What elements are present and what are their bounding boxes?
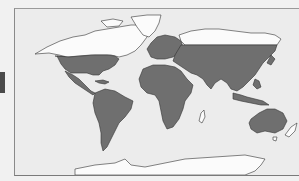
region-australia [249, 109, 287, 133]
region-south-america [93, 89, 133, 151]
region-northern-siberia [179, 29, 281, 45]
region-mexico-central-america [65, 71, 95, 95]
region-tasmania [273, 137, 277, 141]
region-philippines [253, 79, 261, 89]
map-canvas [15, 9, 299, 175]
region-arctic-islands [101, 19, 123, 27]
region-africa [139, 65, 193, 129]
region-southeast-asia [233, 93, 269, 105]
region-madagascar [199, 110, 205, 123]
region-antarctica [75, 155, 265, 175]
region-canada-alaska [35, 25, 149, 57]
region-caribbean [95, 80, 109, 84]
world-map: World distribution map [14, 8, 299, 176]
region-new-zealand [285, 123, 297, 137]
side-marker [0, 72, 5, 93]
